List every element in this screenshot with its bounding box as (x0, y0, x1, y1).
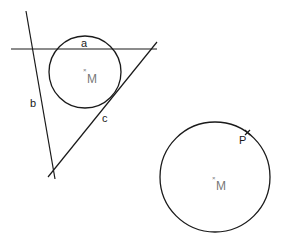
geometry-diagram: a b c × M × M P (0, 0, 285, 246)
figure-tangent-triangle: a b c × M (11, 11, 157, 179)
point-label-p: P (239, 134, 246, 146)
label-b: b (30, 97, 36, 109)
label-c: c (102, 112, 108, 124)
label-a: a (81, 37, 88, 49)
line-c (48, 42, 157, 177)
point-p-cross-icon (245, 130, 250, 135)
figure-circle-point: × M P (160, 122, 270, 232)
center-label-m: M (87, 72, 97, 86)
line-b (26, 11, 55, 179)
center-label-m: M (216, 179, 226, 193)
